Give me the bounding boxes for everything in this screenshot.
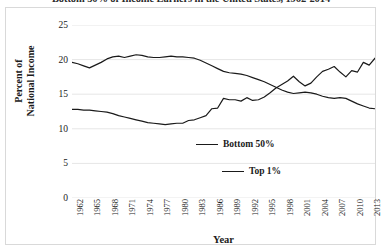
legend-entry-bottom-50: Bottom 50% bbox=[196, 139, 274, 149]
x-axis-tick-label: 2013 bbox=[373, 199, 382, 229]
chart-figure: Bottom 50% of Income Earners in the Unit… bbox=[0, 0, 382, 247]
y-axis-tick-label: 20 bbox=[50, 55, 68, 65]
y-axis-title-line2: National Income bbox=[25, 16, 37, 146]
x-axis-tick-label: 1974 bbox=[146, 199, 155, 229]
y-axis-tick-label: 10 bbox=[50, 124, 68, 134]
y-axis-tick-label: 5 bbox=[50, 158, 68, 168]
y-axis-title-line1: Percent of bbox=[13, 16, 25, 146]
x-axis-tick-label: 2001 bbox=[303, 199, 312, 229]
y-axis-tick-labels: 0510152025 bbox=[46, 25, 68, 198]
x-axis-tick-label: 2004 bbox=[321, 199, 330, 229]
x-axis-tick-label: 1983 bbox=[198, 199, 207, 229]
x-axis-tick-label: 1986 bbox=[216, 199, 225, 229]
x-axis-tick-label: 1977 bbox=[163, 199, 172, 229]
series-line-top-1 bbox=[72, 58, 375, 124]
y-axis-title: Percent of National Income bbox=[13, 16, 43, 146]
x-axis-tick-label: 1980 bbox=[181, 199, 190, 229]
y-axis-tick-label: 25 bbox=[50, 20, 68, 30]
x-axis-tick-label: 1962 bbox=[76, 199, 85, 229]
legend-swatch-top-1 bbox=[222, 171, 244, 172]
y-axis-tick-label: 0 bbox=[50, 193, 68, 203]
legend-swatch-bottom-50 bbox=[196, 144, 218, 145]
x-axis-tick-label: 2007 bbox=[338, 199, 347, 229]
chart-frame: Percent of National Income 0510152025 19… bbox=[5, 7, 376, 245]
legend-label-top-1: Top 1% bbox=[249, 166, 281, 176]
x-axis-tick-label: 1971 bbox=[128, 199, 137, 229]
series-line-bottom-50 bbox=[72, 55, 375, 109]
x-axis-tick-label: 1995 bbox=[268, 199, 277, 229]
x-axis-tick-label: 1965 bbox=[93, 199, 102, 229]
legend-entry-top-1: Top 1% bbox=[222, 166, 281, 176]
x-axis-tick-labels: 1962196519681971197419771980198319861989… bbox=[72, 199, 375, 231]
figure-caption: Bottom 50% of Income Earners in the Unit… bbox=[0, 0, 382, 5]
x-axis-tick-label: 1989 bbox=[233, 199, 242, 229]
x-axis-tick-label: 2010 bbox=[356, 199, 365, 229]
legend-label-bottom-50: Bottom 50% bbox=[223, 139, 274, 149]
x-axis-tick-label: 1992 bbox=[251, 199, 260, 229]
y-axis-tick-label: 15 bbox=[50, 89, 68, 99]
x-axis-tick-label: 1968 bbox=[111, 199, 120, 229]
x-axis-tick-label: 1998 bbox=[286, 199, 295, 229]
x-axis-title: Year bbox=[72, 234, 375, 245]
